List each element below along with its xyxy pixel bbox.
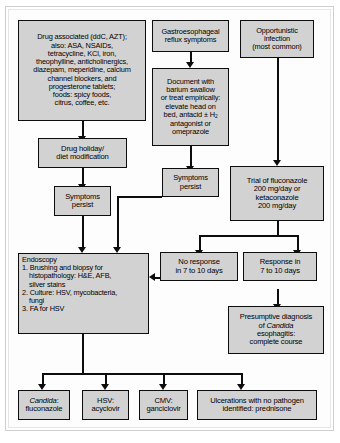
connector-opportunistic-to-trial xyxy=(277,58,279,162)
symptoms-persist-left-text: Symptoms persist xyxy=(63,192,102,211)
node-opportunistic-infection[interactable]: Opportunistic infection (most common) xyxy=(240,20,314,58)
drug-holiday-text: Drug holiday/ diet modification xyxy=(54,144,110,163)
endoscopy-item-3: 3. FA for HSV xyxy=(22,305,145,313)
document-barium-text: Document with barium swallow or treat em… xyxy=(159,77,222,137)
node-candida-treatment[interactable]: Candida: fluconazole xyxy=(18,390,70,420)
no-response-text: No response in 7 to 10 days xyxy=(173,257,224,276)
opportunistic-infection-text: Opportunistic infection (most common) xyxy=(250,26,303,53)
connector-trial-down xyxy=(277,221,279,235)
node-symptoms-persist-left[interactable]: Symptoms persist xyxy=(54,186,111,216)
flowchart-page: Drug associated (ddC, AZT); also: ASA, N… xyxy=(0,0,340,443)
node-trial-fluconazole[interactable]: Trial of fluconazole 200 mg/day or ketac… xyxy=(230,166,324,221)
connector-document-to-symptoms-mid xyxy=(190,146,192,168)
node-ulcerations-treatment[interactable]: Ulcerations with no pathogen identified:… xyxy=(197,390,317,420)
node-drug-holiday[interactable]: Drug holiday/ diet modification xyxy=(38,138,127,168)
connector-symptoms-mid-left-run xyxy=(117,196,162,198)
symptoms-persist-mid-text: Symptoms persist xyxy=(171,173,210,192)
node-cmv-treatment[interactable]: CMV: ganciclovir xyxy=(139,390,188,420)
node-drug-associated[interactable]: Drug associated (ddC, AZT); also: ASA, N… xyxy=(18,20,146,121)
connector-symptoms-mid-down-run xyxy=(117,196,119,249)
endoscopy-item-2: 2. Culture: HSV, mycobacteria, fungi xyxy=(22,289,145,305)
trial-fluconazole-text: Trial of fluconazole 200 mg/day or ketac… xyxy=(245,176,309,212)
node-gerd-symptoms[interactable]: Gastroesophageal reflux symptoms xyxy=(152,20,229,52)
ulcerations-treatment-text: Ulcerations with no pathogen identified:… xyxy=(208,396,306,415)
drug-associated-text: Drug associated (ddC, AZT); also: ASA, N… xyxy=(31,32,133,109)
cmv-treatment-text: CMV: ganciclovir xyxy=(144,396,182,415)
candida-treatment-text: Candida: fluconazole xyxy=(24,396,65,415)
response-text: Response in 7 to 10 days xyxy=(258,257,303,276)
node-presumptive-diagnosis[interactable]: Presumptive diagnosis of Candida esophag… xyxy=(228,306,324,354)
hsv-treatment-text: HSV: acyclovir xyxy=(89,396,121,415)
node-no-response[interactable]: No response in 7 to 10 days xyxy=(160,252,238,281)
node-hsv-treatment[interactable]: HSV: acyclovir xyxy=(82,390,129,420)
presumptive-diagnosis-text: Presumptive diagnosis of Candida esophag… xyxy=(238,312,314,348)
gerd-symptoms-text: Gastroesophageal reflux symptoms xyxy=(160,27,222,46)
connector-trial-split xyxy=(199,235,299,237)
connector-endoscopy-fanout xyxy=(42,373,241,375)
endoscopy-text: Endoscopy 1. Brushing and biopsy for his… xyxy=(19,254,148,315)
node-document-barium[interactable]: Document with barium swallow or treat em… xyxy=(152,68,229,146)
endoscopy-item-1: 1. Brushing and biopsy for histopatholog… xyxy=(22,264,145,289)
arrowhead-no-response-to-endoscopy xyxy=(149,273,155,281)
node-endoscopy[interactable]: Endoscopy 1. Brushing and biopsy for his… xyxy=(18,253,149,334)
connector-symptoms-left-to-endoscopy xyxy=(82,216,84,249)
connector-endoscopy-down xyxy=(82,334,84,373)
node-symptoms-persist-mid[interactable]: Symptoms persist xyxy=(162,168,219,197)
node-response[interactable]: Response in 7 to 10 days xyxy=(243,252,317,281)
